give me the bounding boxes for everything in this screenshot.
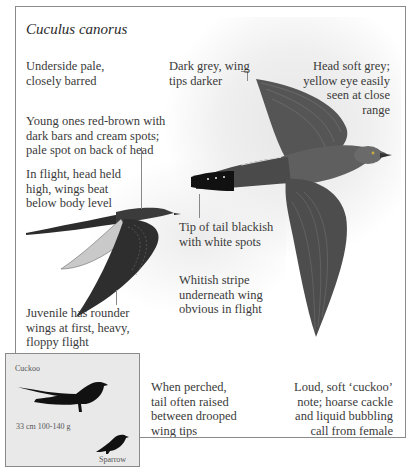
label-tail-tip: Tip of tail blackish with white spots [179,220,273,249]
label-in-flight: In flight, head held high, wings beat be… [26,167,121,211]
label-dark-grey: Dark grey, wing tips darker [169,59,250,88]
leader-line-juvenile [116,290,117,305]
label-perched: When perched, tail often raised between … [151,380,237,438]
label-head: Head soft grey; yellow eye easily seen a… [303,59,390,117]
sparrow-silhouette-icon [6,354,139,466]
label-call: Loud, soft ‘cuckoo’ note; hoarse cackle … [294,380,393,438]
size-comparison-inset: Cuckoo 33 cm 100-140 g Sparrow [5,353,140,467]
label-juvenile: Juvenile has rounder wings at first, hea… [26,306,130,350]
leader-line-tail-tip [199,194,200,218]
label-whitish-stripe: Whitish stripe underneath wing obvious i… [179,273,263,317]
inset-comparison-label: Sparrow [99,455,126,464]
label-young: Young ones red-brown with dark bars and … [26,114,165,158]
label-underside: Underside pale, closely barred [26,59,104,88]
